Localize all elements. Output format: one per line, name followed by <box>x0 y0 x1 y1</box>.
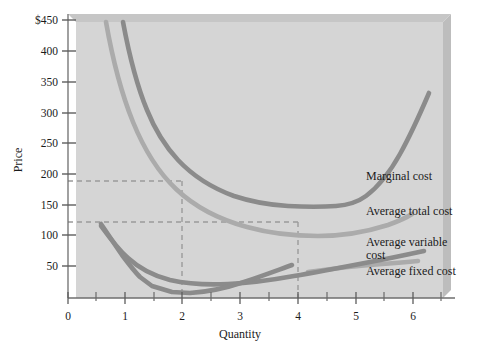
x-tick-label-4: 4 <box>295 310 301 322</box>
chart-figure: $450 400 350 300 250 200 150 100 50 <box>0 0 481 346</box>
x-tick-label-0: 0 <box>65 310 71 322</box>
y-tick-label-450: $450 <box>35 14 58 26</box>
series-label-average-total-cost: Average total cost <box>366 204 453 218</box>
series-label-average-variable-cost-line1: Average variable <box>366 235 447 249</box>
y-tick-label-200: 200 <box>41 168 59 180</box>
x-tick-label-1: 1 <box>122 310 128 322</box>
y-tick-label-400: 400 <box>41 45 59 57</box>
y-axis-ticks <box>62 20 76 266</box>
series-label-average-fixed-cost: Average fixed cost <box>366 264 456 278</box>
plot-bevel-top <box>68 14 451 22</box>
y-axis-title: Price <box>11 148 25 173</box>
y-tick-label-300: 300 <box>41 107 59 119</box>
y-tick-label-50: 50 <box>47 260 59 272</box>
x-tick-label-3: 3 <box>237 310 243 322</box>
plot-bevel-right <box>443 14 451 298</box>
y-tick-label-100: 100 <box>41 229 59 241</box>
x-tick-label-6: 6 <box>410 310 416 322</box>
y-tick-label-150: 150 <box>41 199 59 211</box>
y-tick-label-350: 350 <box>41 76 59 88</box>
chart-canvas: $450 400 350 300 250 200 150 100 50 <box>0 0 481 346</box>
y-tick-label-250: 250 <box>41 137 59 149</box>
cost-curves-chart: $450 400 350 300 250 200 150 100 50 <box>0 0 481 346</box>
series-label-average-variable-cost-line2: cost <box>366 248 386 262</box>
x-axis-title: Quantity <box>219 327 261 341</box>
x-tick-label-2: 2 <box>179 310 185 322</box>
x-tick-label-5: 5 <box>353 310 359 322</box>
series-label-marginal-cost: Marginal cost <box>366 169 433 183</box>
